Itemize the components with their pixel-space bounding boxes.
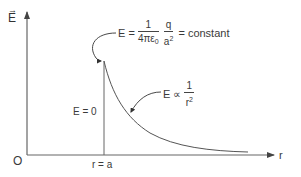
charge-numerator: q (164, 19, 174, 32)
surface-formula-lhs: E = (118, 28, 135, 39)
outside-formula-lhs: E ∝ (163, 89, 181, 100)
inverse-square-pointer-arrow (131, 92, 161, 112)
origin-label: O (13, 155, 22, 167)
inside-field-label: E = 0 (73, 107, 97, 117)
radius-exponent: 2 (169, 35, 173, 42)
surface-field-formula: E = 1 4πε0 q a2 = constant (118, 19, 229, 47)
surface-formula-pointer-arrow (93, 33, 116, 61)
radius-denominator: a2 (164, 32, 174, 47)
y-axis-label: → E (8, 12, 16, 24)
outside-field-formula: E ∝ 1 r2 (163, 80, 194, 108)
epsilon-subscript: 0 (155, 38, 159, 45)
inverse-square-denominator: r2 (184, 93, 194, 108)
distance-exponent: 2 (189, 96, 193, 103)
inverse-square-fraction: 1 r2 (184, 80, 194, 108)
vector-arrow-icon: → (8, 6, 17, 15)
surface-formula-rhs: = constant (178, 28, 229, 39)
coulomb-constant-denominator: 4πε0 (138, 32, 159, 47)
coulomb-constant-fraction: 1 4πε0 (138, 19, 159, 47)
inverse-square-numerator: 1 (184, 80, 194, 93)
coulomb-denominator-text: 4πε (138, 33, 155, 44)
x-axis-label: r (279, 150, 283, 161)
coulomb-constant-numerator: 1 (138, 19, 159, 32)
charge-over-radius-fraction: q a2 (164, 19, 174, 47)
r-equals-a-label: r = a (92, 160, 112, 170)
